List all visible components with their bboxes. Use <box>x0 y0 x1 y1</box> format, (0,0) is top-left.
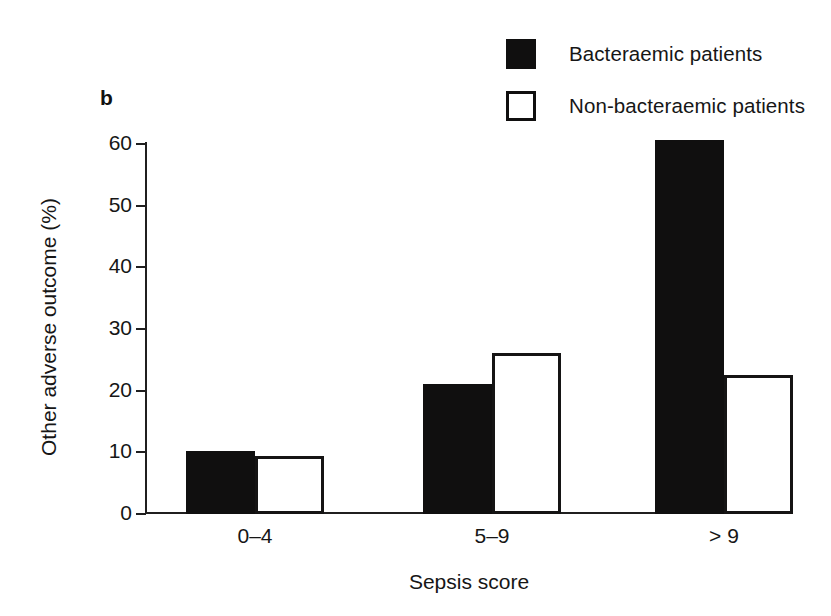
bar-non-bacteraemic <box>492 353 561 514</box>
x-tick-label: 0–4 <box>146 524 364 548</box>
bar-non-bacteraemic <box>255 456 324 514</box>
bar-bacteraemic <box>655 140 724 514</box>
bar-bacteraemic <box>186 451 255 514</box>
figure-panel-b: Bacteraemic patients Non-bacteraemic pat… <box>0 0 831 616</box>
x-tick-label: > 9 <box>615 524 831 548</box>
bar-non-bacteraemic <box>724 375 793 514</box>
plot-bars: 0–45–9> 9 <box>0 0 831 616</box>
bar-bacteraemic <box>423 384 492 515</box>
x-tick-label: 5–9 <box>383 524 601 548</box>
